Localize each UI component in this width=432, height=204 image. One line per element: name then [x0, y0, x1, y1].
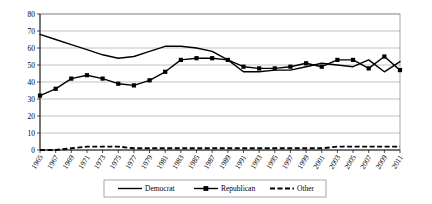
- data-point-marker: [194, 56, 198, 60]
- data-point-marker: [320, 65, 324, 69]
- y-tick-label: 70: [28, 27, 36, 36]
- data-point-marker: [54, 87, 58, 91]
- y-tick-label: 10: [28, 129, 36, 138]
- data-point-marker: [179, 58, 183, 62]
- y-tick-label: 40: [28, 78, 36, 87]
- data-point-marker: [116, 82, 120, 86]
- data-point-marker: [382, 54, 386, 58]
- data-point-marker: [288, 65, 292, 69]
- data-point-marker: [38, 94, 42, 98]
- data-point-marker: [351, 58, 355, 62]
- data-point-marker: [304, 61, 308, 65]
- y-axis-tick-labels: 01020304050607080: [28, 10, 36, 155]
- y-tick-label: 60: [28, 44, 36, 53]
- data-point-marker: [163, 70, 167, 74]
- y-tick-label: 20: [28, 112, 36, 121]
- legend-label: Republican: [221, 184, 255, 193]
- data-point-marker: [273, 66, 277, 70]
- data-point-marker: [132, 83, 136, 87]
- legend-swatch-marker: [204, 186, 209, 191]
- line-chart: 01020304050607080 1965196719691971197319…: [0, 0, 432, 204]
- y-tick-label: 80: [28, 10, 36, 19]
- chart-legend: DemocratRepublicanOther: [104, 180, 326, 197]
- data-point-marker: [101, 77, 105, 81]
- plot-background: [0, 0, 432, 204]
- chart-container: 01020304050607080 1965196719691971197319…: [0, 0, 432, 204]
- data-point-marker: [367, 66, 371, 70]
- y-tick-label: 50: [28, 61, 36, 70]
- y-tick-label: 0: [31, 146, 35, 155]
- data-point-marker: [147, 78, 151, 82]
- data-point-marker: [241, 65, 245, 69]
- data-point-marker: [226, 58, 230, 62]
- data-point-marker: [69, 77, 73, 81]
- data-point-marker: [210, 56, 214, 60]
- y-tick-label: 30: [28, 95, 36, 104]
- data-point-marker: [335, 58, 339, 62]
- data-point-marker: [257, 66, 261, 70]
- data-point-marker: [398, 68, 402, 72]
- data-point-marker: [85, 73, 89, 77]
- legend-label: Other: [297, 184, 315, 193]
- legend-label: Democrat: [145, 184, 175, 193]
